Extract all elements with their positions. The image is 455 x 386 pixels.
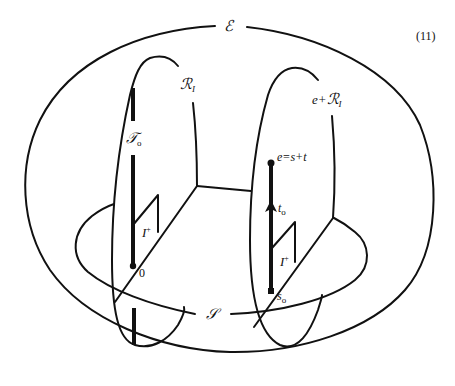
diagram-canvas — [0, 0, 455, 386]
spacetime-diagram: (11) ℰ 𝒮 ℛI e+ℛI 𝒯o I+ I+ 0 e=s+t to so — [0, 0, 455, 386]
floor-right-edge — [254, 218, 333, 327]
right-region-label: e+ℛI — [312, 92, 342, 107]
left-region-back — [193, 103, 197, 186]
outer-space-label: ℰ — [224, 19, 233, 34]
floor-back-edge — [197, 186, 251, 191]
right-interval-label: I+ — [280, 255, 289, 268]
left-region-label: ℛI — [180, 77, 195, 92]
floor-left-edge — [115, 186, 197, 302]
equation-number: (11) — [416, 29, 436, 44]
start-point-marker — [268, 288, 274, 294]
right-region-loop — [250, 68, 322, 347]
event-label: e=s+t — [277, 151, 307, 163]
right-region-back — [332, 116, 334, 218]
left-interval-label: I+ — [142, 226, 151, 239]
origin-label: 0 — [139, 267, 145, 279]
left-trajectory-label: 𝒯o — [126, 131, 142, 146]
event-point-marker — [268, 160, 275, 167]
start-point-label: so — [277, 290, 286, 302]
time-vector-label: to — [278, 202, 286, 214]
plane-left-segment — [76, 204, 195, 314]
origin-point-marker — [130, 263, 136, 269]
plane-label: 𝒮 — [206, 307, 218, 322]
